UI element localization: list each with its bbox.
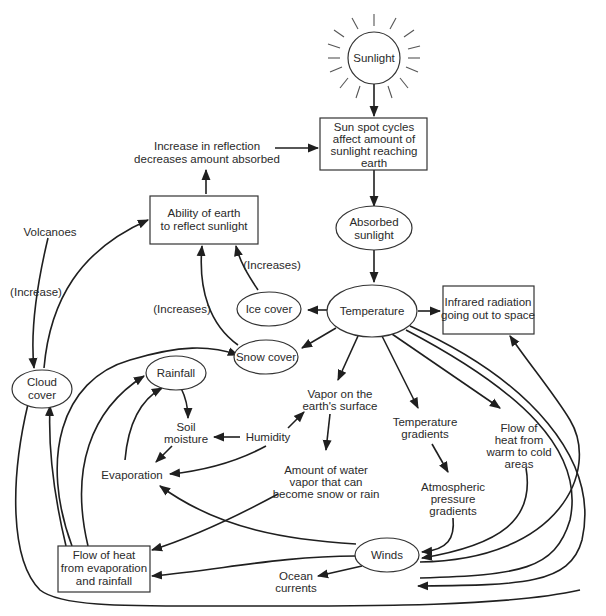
node-label: decreases amount absorbed [134,153,280,165]
edge-soil-evaporation [156,446,172,462]
node-label: and rainfall [76,575,132,587]
edge-temperature-flowwarm [392,334,500,408]
edge-temperature-snow [302,328,336,348]
node-vapor-surface: Vapor on the earth's surface [302,388,377,412]
node-label: (Increases) [153,303,211,315]
label-increase: (Increase) [10,286,62,298]
node-label: currents [275,582,317,594]
node-atmospheric-pressure: Atmospheric pressure gradients [421,481,485,517]
node-label: Cloud [27,376,57,388]
node-soil-moisture: Soil moisture [164,421,208,445]
node-ability-to-reflect: Ability of earth to reflect sunlight [150,196,258,244]
node-label: gradients [401,428,449,440]
edge-temperature-vapor [338,336,358,380]
node-label: Flow of heat [73,549,136,561]
node-label: affect amount of [333,133,416,145]
node-label: Infrared radiation [445,296,532,308]
node-label: Increase in reflection [154,140,260,152]
node-temperature-gradients: Temperature gradients [393,416,458,440]
node-sunspot-cycles: Sun spot cycles affect amount of sunligh… [320,118,427,170]
node-label: Flow of [500,422,538,434]
node-label: Temperature [393,416,458,428]
node-reflection-increase: Increase in reflection decreases amount … [134,140,280,165]
node-label: to reflect sunlight [161,220,249,232]
node-label: Sun spot cycles [334,121,415,133]
node-label: cover [28,389,56,401]
node-label: moisture [164,433,208,445]
node-volcanoes: Volcanoes [23,226,76,238]
node-label: (Increase) [10,286,62,298]
node-label: Vapor on the [307,388,372,400]
edge-atm-winds [422,518,453,552]
node-sunlight: Sunlight [348,32,400,84]
node-label: gradients [429,505,477,517]
node-label: earth [361,157,387,169]
node-snow-cover: Snow cover [234,340,298,374]
node-ice-cover: Ice cover [237,292,301,326]
edge-winds-ocean [318,566,362,576]
node-label: Humidity [246,431,291,443]
label-increases-ice: (Increases) [243,259,301,271]
node-label: sunlight [354,229,394,241]
node-label: Absorbed [349,216,398,228]
node-infrared-radiation: Infrared radiation going out to space [441,286,535,334]
label-increases-snow: (Increases) [153,303,211,315]
node-label: from evaporation [61,562,147,574]
edge-temperature-tempgrad [382,336,418,408]
edge-winds-flowevap [152,556,356,576]
node-ocean-currents: Ocean currents [275,570,317,594]
edge-humidity-vapor [288,412,304,428]
node-label: earth's surface [302,400,377,412]
node-label: sunlight reaching [331,145,418,157]
node-winds: Winds [355,538,419,572]
node-flow-evap-rainfall: Flow of heat from evaporation and rainfa… [58,546,150,592]
node-label: areas [505,458,534,470]
node-water-vapor-amount: Amount of water vapor that can become sn… [273,464,380,500]
node-label: Ice cover [246,303,293,315]
climate-feedback-diagram: Sunlight Sun spot cycles affect amount o… [0,0,606,616]
edge-vapor-watervapor [326,414,330,450]
node-humidity: Humidity [246,431,291,443]
node-cloud-cover: Cloud cover [12,370,72,408]
node-label: pressure [431,493,476,505]
node-absorbed-sunlight: Absorbed sunlight [336,206,412,250]
edge-humidity-evaporation [170,446,266,474]
node-label: heat from [495,434,544,446]
edge-evaporation-rainfall [125,388,162,460]
edge-tempgrad-atm [432,444,448,472]
node-label: (Increases) [243,259,301,271]
node-label: Volcanoes [23,226,76,238]
edges [16,84,585,606]
node-label: Temperature [340,305,405,317]
edge-rainfall-soil [181,388,188,418]
node-label: Soil [176,421,195,433]
edge-snow-ability [201,246,238,345]
node-label: become snow or rain [273,488,380,500]
edge-flowevap-rainfall [82,376,144,546]
node-label: going out to space [441,309,535,321]
node-label: Winds [371,549,403,561]
node-evaporation: Evaporation [101,469,162,481]
node-label: Sunlight [353,52,395,64]
node-label: Ocean [279,570,313,582]
node-label: Ability of earth [168,207,241,219]
node-label: Amount of water [284,464,368,476]
node-rainfall: Rainfall [146,356,206,390]
node-label: vapor that can [290,476,363,488]
node-label: Atmospheric [421,481,485,493]
node-label: Rainfall [157,367,195,379]
node-temperature: Temperature [327,285,417,337]
edge-watervapor-flowevap [152,494,278,550]
node-label: Evaporation [101,469,162,481]
node-label: Snow cover [236,351,296,363]
node-label: warm to cold [485,446,551,458]
node-flow-warm-to-cold: Flow of heat from warm to cold areas [485,422,551,470]
